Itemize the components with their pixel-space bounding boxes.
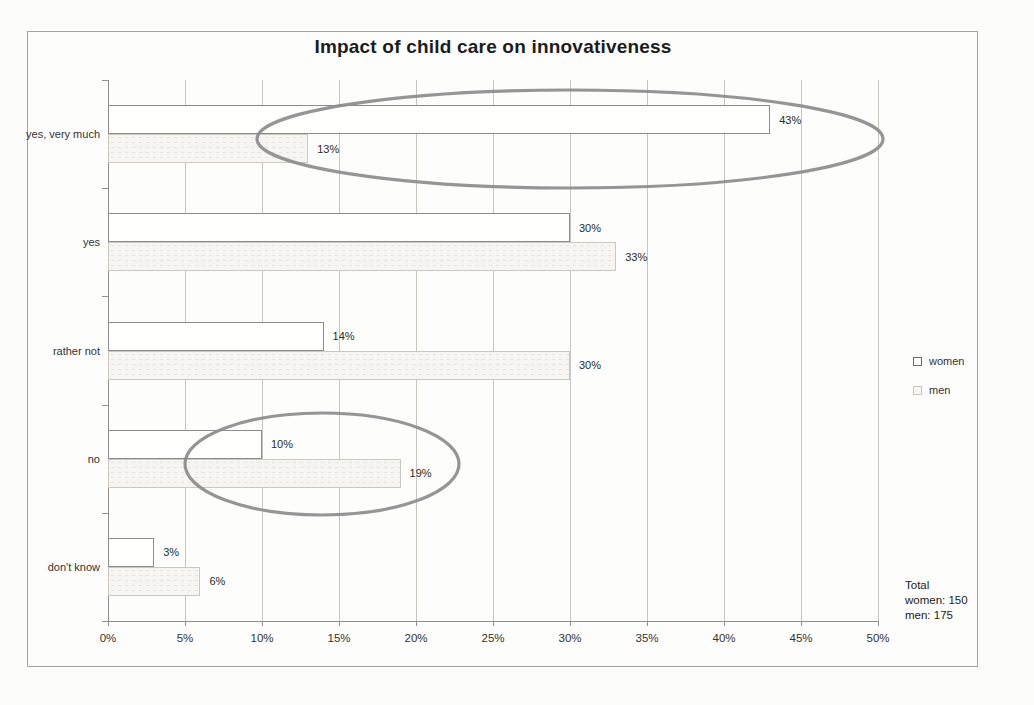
bar-women-yes-very-much <box>108 105 770 134</box>
category-label-yes-very-much: yes, very much <box>22 127 100 141</box>
data-label-men-no: 19% <box>410 467 432 479</box>
x-axis-tick-40% <box>724 621 725 626</box>
legend-label-men: men <box>929 384 950 396</box>
x-axis-label-20%: 20% <box>404 632 427 644</box>
x-axis-tick-35% <box>647 621 648 626</box>
category-label-rather-not: rather not <box>22 343 100 357</box>
y-axis-tick <box>102 296 108 297</box>
data-label-men-don-t-know: 6% <box>209 575 225 587</box>
gridline-40% <box>724 80 725 621</box>
category-label-no: no <box>22 452 100 466</box>
chart-title: Impact of child care on innovativeness <box>108 36 878 58</box>
x-axis-tick-15% <box>339 621 340 626</box>
y-axis-tick <box>102 188 108 189</box>
x-axis-label-0%: 0% <box>100 632 117 644</box>
x-axis-label-40%: 40% <box>712 632 735 644</box>
gridline-50% <box>878 80 879 621</box>
data-label-men-yes-very-much: 13% <box>317 143 339 155</box>
x-axis-label-30%: 30% <box>558 632 581 644</box>
bar-men-rather-not <box>108 351 570 380</box>
totals-women: women: 150 <box>905 593 968 608</box>
totals-men: men: 175 <box>905 608 968 623</box>
legend-item-men: men <box>913 384 950 396</box>
scanned-chart-page: Impact of child care on innovativeness 0… <box>0 0 1034 705</box>
legend-label-women: women <box>929 355 964 367</box>
plot-area: 0%5%10%15%20%25%30%35%40%45%50%yes, very… <box>108 80 878 622</box>
bar-women-no <box>108 430 262 459</box>
data-label-women-no: 10% <box>271 438 293 450</box>
totals-title: Total <box>905 578 968 593</box>
legend-item-women: women <box>913 355 964 367</box>
x-axis-label-45%: 45% <box>789 632 812 644</box>
x-axis-label-10%: 10% <box>250 632 273 644</box>
bar-men-yes <box>108 242 616 271</box>
x-axis-tick-10% <box>262 621 263 626</box>
gridline-30% <box>570 80 571 621</box>
y-axis-tick <box>102 80 108 81</box>
y-axis-tick <box>102 621 108 622</box>
bar-women-yes <box>108 213 570 242</box>
y-axis-tick <box>102 405 108 406</box>
data-label-women-don-t-know: 3% <box>163 546 179 558</box>
bar-women-don-t-know <box>108 538 154 567</box>
bar-men-yes-very-much <box>108 134 308 163</box>
bar-women-rather-not <box>108 322 324 351</box>
data-label-women-yes: 30% <box>579 222 601 234</box>
data-label-women-yes-very-much: 43% <box>779 114 801 126</box>
category-label-yes: yes <box>22 235 100 249</box>
x-axis-label-15%: 15% <box>327 632 350 644</box>
data-label-men-yes: 33% <box>625 251 647 263</box>
x-axis-label-25%: 25% <box>481 632 504 644</box>
x-axis-tick-45% <box>801 621 802 626</box>
bar-men-no <box>108 459 401 488</box>
x-axis-tick-5% <box>185 621 186 626</box>
bar-men-don-t-know <box>108 567 200 596</box>
x-axis-tick-25% <box>493 621 494 626</box>
data-label-women-rather-not: 14% <box>333 330 355 342</box>
gridline-45% <box>801 80 802 621</box>
legend-swatch-men <box>913 386 922 395</box>
x-axis-label-5%: 5% <box>177 632 194 644</box>
x-axis-label-35%: 35% <box>635 632 658 644</box>
y-axis-tick <box>102 513 108 514</box>
totals-note: Total women: 150 men: 175 <box>905 578 968 624</box>
data-label-men-rather-not: 30% <box>579 359 601 371</box>
x-axis-tick-30% <box>570 621 571 626</box>
x-axis-label-50%: 50% <box>866 632 889 644</box>
x-axis-tick-50% <box>878 621 879 626</box>
category-label-don-t-know: don't know <box>22 560 100 574</box>
x-axis-tick-0% <box>108 621 109 626</box>
x-axis-tick-20% <box>416 621 417 626</box>
legend-swatch-women <box>913 357 922 366</box>
gridline-35% <box>647 80 648 621</box>
